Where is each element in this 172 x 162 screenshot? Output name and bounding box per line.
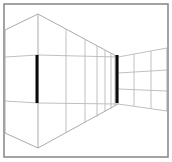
- far-bar: [116, 55, 119, 103]
- outer-frame-border: [4, 4, 168, 157]
- near-bar: [36, 55, 39, 103]
- perspective-drawing-canvas: [0, 0, 172, 162]
- illusion-figure: [0, 0, 172, 162]
